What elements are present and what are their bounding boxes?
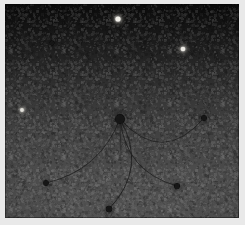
sources-and-arcs-overlay [5,4,239,218]
source-point-S1 [115,16,120,21]
source-point-D5 [50,41,55,46]
source-point-D2 [43,180,49,186]
source-point-S3 [20,108,24,112]
source-point-D0 [115,114,125,124]
source-point-D4 [174,183,180,189]
source-point-D3 [106,206,112,212]
image-plate [5,4,239,218]
arc-A2 [120,119,177,186]
image-frame [0,0,245,225]
arc-group [46,118,204,209]
bright-source-group [16,10,191,116]
arc-A4 [46,119,120,183]
source-point-S2 [181,47,186,52]
source-point-D1 [201,115,207,121]
dark-source-group [38,37,211,218]
